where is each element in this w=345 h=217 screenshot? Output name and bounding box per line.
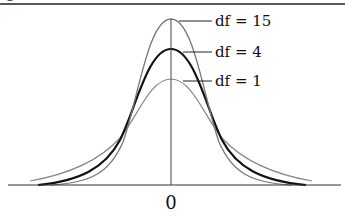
- curve-df4: [38, 49, 306, 185]
- x-tick-zero: 0: [165, 192, 176, 213]
- t-distribution-diagram: g df = 15 df = 4 df = 1 0: [0, 0, 345, 217]
- label-df1: df = 1: [215, 72, 262, 90]
- header-fragment: g: [6, 0, 16, 2]
- label-df15: df = 15: [215, 12, 271, 30]
- label-df4: df = 4: [215, 43, 262, 61]
